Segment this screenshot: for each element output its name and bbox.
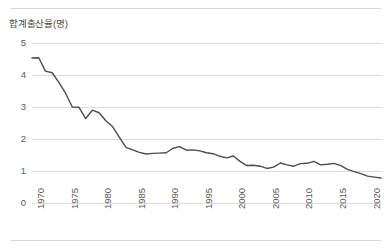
- y-axis-tick-label: 1: [10, 166, 26, 176]
- x-axis-tick-label: 1975: [70, 188, 80, 209]
- x-axis-tick-label: 1970: [36, 188, 46, 209]
- x-axis-tick-label: 2010: [304, 188, 314, 209]
- x-axis-tick-label: 1985: [137, 188, 147, 209]
- y-axis-tick-label: 5: [10, 38, 26, 48]
- y-axis-tick-label: 4: [10, 70, 26, 80]
- line-chart-svg: [0, 0, 391, 250]
- chart-figure: 합계출산율(명) 543210 197019751980198519901995…: [0, 0, 391, 250]
- x-axis-tick-label: 2020: [372, 188, 382, 209]
- y-axis-tick-label: 0: [10, 198, 26, 208]
- x-axis-tick-label: 1980: [103, 188, 113, 209]
- x-axis-tick-label: 2005: [271, 188, 281, 209]
- gridlines: [32, 44, 381, 204]
- x-axis-tick-label: 1990: [170, 188, 180, 209]
- x-axis-tick-label: 2015: [338, 188, 348, 209]
- x-axis-tick-label: 2000: [237, 188, 247, 209]
- y-axis-tick-label: 2: [10, 134, 26, 144]
- y-axis-tick-label: 3: [10, 102, 26, 112]
- plot-area: 543210 197019751980198519901995200020052…: [0, 0, 391, 250]
- x-axis-tick-label: 1995: [204, 188, 214, 209]
